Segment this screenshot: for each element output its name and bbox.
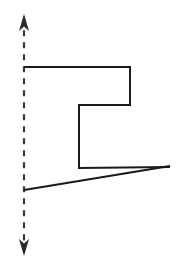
line-figure — [0, 0, 176, 277]
figure-background — [0, 0, 176, 277]
figure-canvas — [0, 0, 176, 277]
